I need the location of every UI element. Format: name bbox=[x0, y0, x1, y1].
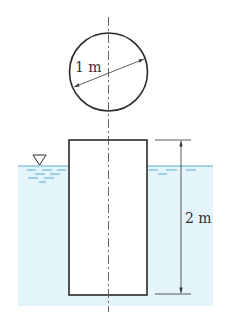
cylinder-diagram: 1 m 2 m bbox=[0, 0, 237, 327]
height-label: 2 m bbox=[185, 210, 212, 226]
diameter-label: 1 m bbox=[75, 59, 102, 75]
water-level-triangle-icon bbox=[33, 155, 46, 165]
cylinder-side-view bbox=[69, 140, 147, 295]
